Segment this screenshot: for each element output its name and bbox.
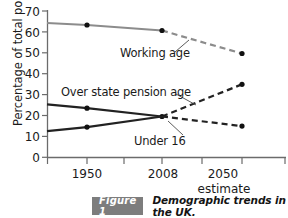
series-under-16 bbox=[47, 117, 245, 132]
series-label-under-16: Under 16 bbox=[134, 134, 186, 148]
data-point-pension-1950 bbox=[84, 106, 89, 111]
figure-caption-tag: Figure 1 bbox=[92, 197, 143, 215]
series-pension-solid bbox=[47, 104, 162, 116]
data-point-under16-2050 bbox=[239, 124, 244, 129]
figure-caption: Figure 1 Demographic trends in the UK. bbox=[92, 197, 288, 215]
y-tick-marks bbox=[42, 11, 47, 157]
data-point-under16-1950 bbox=[84, 125, 89, 130]
data-point-working-age-2050 bbox=[239, 51, 244, 56]
data-point-pension-2050 bbox=[239, 82, 244, 87]
data-point-working-age-1950 bbox=[84, 22, 89, 27]
data-point-working-age-2008 bbox=[159, 28, 164, 33]
series-under16-dashed bbox=[162, 117, 242, 127]
series-under16-solid bbox=[47, 117, 162, 132]
series-label-working-age: Working age bbox=[120, 46, 190, 60]
figure-caption-text: Demographic trends in the UK. bbox=[143, 197, 288, 215]
chart-plot-area bbox=[0, 0, 288, 218]
x-tick-marks bbox=[48, 158, 286, 164]
figure-container: Percentage of total population 70 60 50 … bbox=[0, 0, 288, 218]
leader-line-under16 bbox=[168, 121, 183, 135]
series-label-over-state-pension-age: Over state pension age bbox=[61, 85, 191, 99]
series-working-age-solid bbox=[47, 23, 162, 31]
